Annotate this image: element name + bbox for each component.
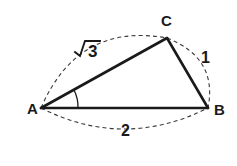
side-label-cb: 1: [201, 49, 210, 66]
triangle-diagram-svg: A B C 3 1 2: [0, 0, 237, 166]
vertex-label-b: B: [214, 101, 225, 118]
angle-arc-a: [74, 90, 78, 108]
vertex-label-a: A: [27, 100, 38, 117]
triangle-edge-ac: [41, 38, 167, 108]
side-label-ac: 3: [88, 42, 97, 61]
geometry-figure: A B C 3 1 2: [0, 0, 237, 166]
side-label-ab: 2: [121, 122, 130, 139]
vertex-label-c: C: [161, 12, 172, 29]
